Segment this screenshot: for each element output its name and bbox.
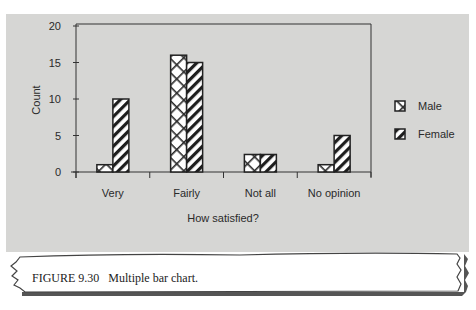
y-axis: 05101520 [49, 20, 79, 178]
caption-text: Multiple bar chart. [108, 271, 198, 285]
male-swatch-icon [395, 101, 405, 111]
bars [97, 55, 350, 172]
bar-male [97, 165, 113, 172]
x-axis: VeryFairlyNot allNo opinion [71, 172, 371, 199]
bar-female [260, 154, 276, 172]
legend-label-female: Female [418, 128, 455, 140]
y-tick-label: 10 [49, 93, 61, 105]
female-swatch-icon [395, 129, 405, 139]
bar-male [171, 55, 187, 172]
figure-caption: FIGURE 9.30 Multiple bar chart. [32, 271, 198, 286]
legend-item-male: Male [395, 100, 442, 112]
bar-female [113, 99, 129, 172]
legend-item-female: Female [395, 128, 455, 140]
bar-male [318, 165, 334, 172]
x-tick-label: No opinion [308, 187, 361, 199]
y-tick-label: 15 [49, 57, 61, 69]
bar-male [244, 154, 260, 172]
legend-label-male: Male [418, 100, 442, 112]
bar-female [187, 63, 203, 173]
y-tick-label: 0 [55, 166, 61, 178]
bar-chart: 05101520 VeryFairlyNot allNo opinion Cou… [0, 0, 476, 310]
bar-female [334, 136, 350, 173]
x-axis-title: How satisfied? [187, 212, 259, 224]
x-tick-label: Not all [245, 187, 276, 199]
x-tick-label: Very [102, 187, 125, 199]
y-tick-label: 20 [49, 20, 61, 32]
figure-number: FIGURE 9.30 [32, 271, 99, 285]
x-tick-label: Fairly [173, 187, 200, 199]
legend: Male Female [395, 100, 455, 140]
y-axis-title: Count [30, 85, 42, 114]
y-tick-label: 5 [55, 130, 61, 142]
